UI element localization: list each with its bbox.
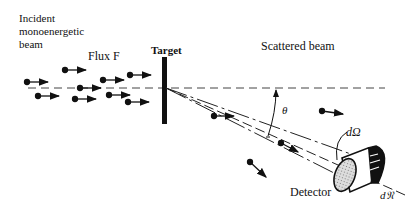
solid-angle-label: dΩ (346, 126, 361, 139)
detector (330, 146, 385, 194)
incident-beam-label: Incident monoenergetic beam (19, 12, 84, 51)
incident-particles (25, 68, 152, 105)
scattered-particles (212, 109, 344, 178)
count-label: d𝔑 (380, 189, 394, 202)
detector-label: Detector (290, 186, 331, 199)
theta-arrow (268, 90, 276, 136)
flux-label: Flux F (88, 50, 120, 63)
theta-label: θ (282, 104, 287, 117)
target-bar (162, 57, 167, 124)
scattered-beam-label: Scattered beam (261, 40, 335, 53)
target-label: Target (151, 44, 182, 57)
